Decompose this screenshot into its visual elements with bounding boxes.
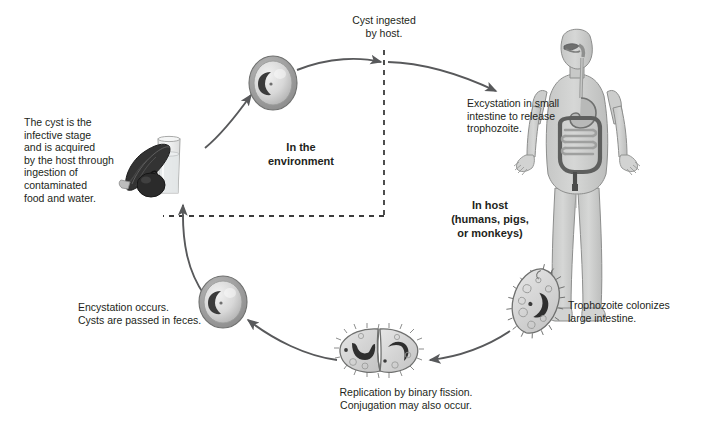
caption-cyst-ingested: Cyst ingested by host. <box>332 14 436 39</box>
zone-label-host: In host (humans, pigs, or monkeys) <box>420 198 560 240</box>
caption-trophozoite-colonizes: Trophozoite colonizes large intestine. <box>568 299 700 324</box>
life-cycle-diagram: The cyst is the infective stage and is a… <box>0 0 721 425</box>
caption-excystation: Excystation in small intestine to releas… <box>467 97 591 135</box>
caption-encystation: Encystation occurs. Cysts are passed in … <box>78 301 228 326</box>
zone-label-environment: In the environment <box>246 140 356 168</box>
caption-cyst-infective-stage: The cyst is the infective stage and is a… <box>24 116 140 204</box>
caption-replication: Replication by binary fission. Conjugati… <box>306 386 506 411</box>
stage-cyst-feces <box>0 0 721 425</box>
